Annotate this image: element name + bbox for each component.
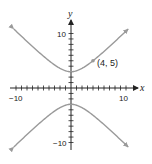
x-min-label: −10 bbox=[9, 94, 23, 103]
y-min-label: −10 bbox=[53, 139, 67, 148]
hyperbola-plot: x y −10 10 10 −10 (4, 5) bbox=[0, 0, 152, 164]
point-marker bbox=[91, 59, 95, 63]
point-label: (4, 5) bbox=[97, 58, 118, 68]
y-axis bbox=[69, 20, 74, 150]
x-axis bbox=[10, 86, 138, 91]
x-axis-label: x bbox=[139, 82, 145, 93]
y-axis-label: y bbox=[67, 8, 73, 19]
y-max-label: 10 bbox=[57, 30, 66, 39]
x-max-label: 10 bbox=[119, 94, 128, 103]
